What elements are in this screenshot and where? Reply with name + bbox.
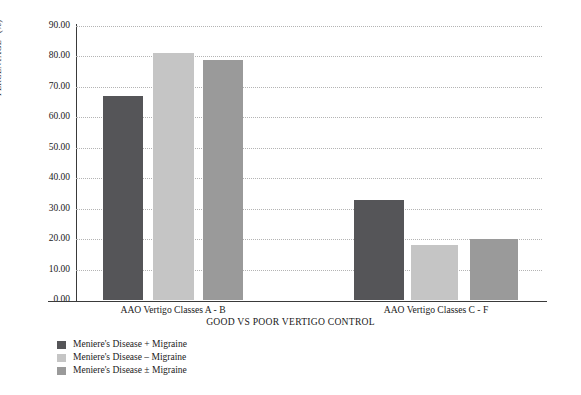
bar bbox=[153, 53, 194, 300]
gridline bbox=[76, 209, 542, 210]
y-axis-tick-label: 0.00 bbox=[18, 295, 70, 305]
y-axis-tick-label: 90.00 bbox=[18, 21, 70, 31]
y-axis-tick-label: 20.00 bbox=[18, 234, 70, 244]
x-axis-line bbox=[48, 301, 547, 302]
y-axis-title: PERCENTAGE* (%) bbox=[0, 20, 3, 96]
y-axis-tick-label: 80.00 bbox=[18, 51, 70, 61]
bar bbox=[203, 60, 243, 301]
gridline bbox=[76, 117, 542, 118]
chart-figure: PERCENTAGE* (%) 0.0010.0020.0030.0040.00… bbox=[0, 0, 581, 395]
gridline bbox=[76, 56, 542, 57]
legend-item: Meniere's Disease + Migraine bbox=[57, 338, 187, 351]
bar bbox=[103, 96, 143, 300]
bar bbox=[470, 239, 518, 300]
legend-label: Meniere's Disease ± Migraine bbox=[73, 366, 187, 376]
x-axis-group-label: AAO Vertigo Classes C - F bbox=[346, 304, 526, 315]
y-axis-tick-label: 60.00 bbox=[18, 112, 70, 122]
y-axis-tick-label: 50.00 bbox=[18, 143, 70, 153]
plot-area bbox=[76, 26, 542, 300]
legend-swatch bbox=[57, 354, 66, 362]
gridline bbox=[76, 178, 542, 179]
legend-swatch bbox=[57, 341, 66, 349]
bar bbox=[411, 245, 458, 300]
y-axis-tick-label: 40.00 bbox=[18, 173, 70, 183]
x-axis-title: GOOD VS POOR VERTIGO CONTROL bbox=[0, 316, 581, 327]
y-axis-tick-label: 10.00 bbox=[18, 265, 70, 275]
legend-item: Meniere's Disease – Migraine bbox=[57, 351, 187, 364]
legend-swatch bbox=[57, 367, 66, 375]
chart-legend: Meniere's Disease + MigraineMeniere's Di… bbox=[57, 338, 187, 377]
gridline bbox=[76, 26, 542, 27]
x-axis-group-label: AAO Vertigo Classes A - B bbox=[83, 304, 263, 315]
legend-item: Meniere's Disease ± Migraine bbox=[57, 364, 187, 377]
legend-label: Meniere's Disease + Migraine bbox=[73, 340, 187, 350]
gridline bbox=[76, 148, 542, 149]
y-axis-tick-label: 70.00 bbox=[18, 82, 70, 92]
legend-label: Meniere's Disease – Migraine bbox=[73, 353, 186, 363]
gridline bbox=[76, 87, 542, 88]
y-axis-tick-label: 30.00 bbox=[18, 204, 70, 214]
bar bbox=[354, 200, 404, 300]
